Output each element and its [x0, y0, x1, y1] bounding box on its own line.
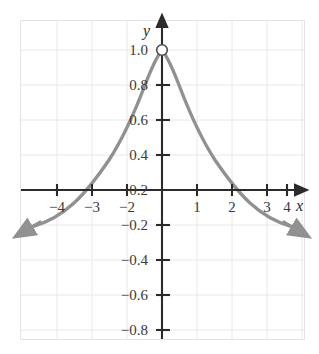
- chart-canvas: [0, 0, 319, 354]
- x-axis-label: x: [296, 198, 303, 214]
- chart-figure: 1.0 0.8 0.6 0.4 0.2 −0.2 −0.4 −0.6 −0.8 …: [0, 0, 319, 354]
- y-tick-label-0-4: 0.4: [110, 148, 148, 163]
- x-tick-label-1: 1: [183, 200, 211, 215]
- x-axis: [21, 184, 296, 196]
- y-tick-label-0-2: 0.2: [110, 183, 148, 198]
- y-tick-label-neg-0-8: −0.8: [103, 323, 148, 338]
- x-tick-label-2: 2: [218, 200, 246, 215]
- x-tick-label-neg-4: −4: [40, 200, 74, 215]
- y-axis-label: y: [143, 23, 150, 39]
- x-tick-label-neg-3: −3: [75, 200, 109, 215]
- y-tick-label-neg-0-4: −0.4: [103, 253, 148, 268]
- y-tick-label-neg-0-2: −0.2: [103, 218, 148, 233]
- x-tick-label-neg-2: −2: [110, 200, 144, 215]
- y-axis: [156, 26, 170, 339]
- y-tick-label-neg-0-6: −0.6: [103, 288, 148, 303]
- open-circle-marker: [157, 45, 168, 56]
- y-tick-label-1-0: 1.0: [110, 43, 148, 58]
- y-tick-label-0-6: 0.6: [110, 113, 148, 128]
- y-tick-label-0-8: 0.8: [110, 78, 148, 93]
